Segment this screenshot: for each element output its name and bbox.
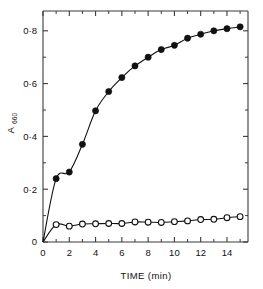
- y-tick-label: 0·2: [23, 184, 37, 195]
- absorbance-time-chart: 02468101214 00·20·40·60·8 TIME (min) A 6…: [0, 0, 263, 289]
- figure-container: 02468101214 00·20·40·60·8 TIME (min) A 6…: [0, 0, 263, 289]
- x-tick-label: 6: [119, 247, 124, 258]
- figure-background: [0, 0, 263, 289]
- y-tick-label: 0·8: [23, 25, 37, 36]
- open-circle-marker: [93, 221, 99, 227]
- open-circle-marker: [53, 222, 59, 228]
- filled-circle-marker: [53, 176, 59, 182]
- y-axis-title-base: A: [5, 126, 16, 133]
- x-tick-label: 14: [222, 247, 233, 258]
- filled-circle-marker: [66, 169, 72, 175]
- open-circle-marker: [66, 223, 72, 229]
- filled-circle-marker: [171, 42, 177, 48]
- filled-circle-marker: [119, 74, 125, 80]
- open-circle-marker: [158, 220, 164, 226]
- x-tick-label: 8: [145, 247, 150, 258]
- x-tick-label: 10: [169, 247, 180, 258]
- filled-circle-marker: [145, 54, 151, 60]
- open-circle-marker: [145, 219, 151, 225]
- open-circle-marker: [106, 221, 112, 227]
- open-circle-marker: [211, 216, 217, 222]
- filled-circle-marker: [79, 141, 85, 147]
- open-circle-marker: [132, 219, 138, 225]
- y-tick-label: 0·6: [23, 78, 37, 89]
- x-axis-title: TIME (min): [121, 270, 172, 281]
- filled-circle-marker: [211, 28, 217, 34]
- open-circle-marker: [198, 217, 204, 223]
- filled-circle-marker: [237, 24, 243, 30]
- filled-circle-marker: [224, 26, 230, 32]
- open-circle-marker: [80, 221, 86, 227]
- filled-circle-marker: [184, 35, 190, 41]
- filled-circle-marker: [106, 88, 112, 94]
- open-circle-marker: [172, 219, 178, 225]
- open-circle-marker: [237, 214, 243, 220]
- open-circle-marker: [224, 215, 230, 221]
- x-tick-label: 12: [195, 247, 206, 258]
- filled-circle-marker: [132, 63, 138, 69]
- open-circle-marker: [119, 221, 125, 227]
- y-tick-label: 0: [32, 236, 37, 247]
- y-tick-label: 0·4: [23, 131, 37, 142]
- filled-circle-marker: [158, 46, 164, 52]
- filled-circle-marker: [92, 108, 98, 114]
- x-tick-label: 4: [93, 247, 98, 258]
- open-circle-marker: [185, 218, 191, 224]
- y-axis-title-subscript: 660: [11, 112, 18, 124]
- filled-circle-marker: [198, 31, 204, 37]
- x-tick-label: 2: [67, 247, 72, 258]
- x-tick-label: 0: [40, 247, 45, 258]
